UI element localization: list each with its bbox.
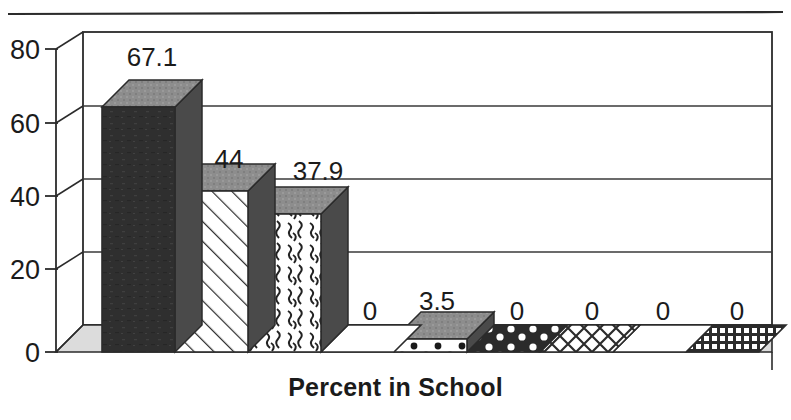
y-tick-label-60: 60	[10, 109, 40, 139]
bar-1	[102, 80, 202, 352]
y-tick-label-0: 0	[25, 338, 40, 368]
y-tick-label-20: 20	[10, 255, 40, 285]
top-separator-rule	[8, 12, 783, 14]
y-tick-labels: 80 60 40 20 0	[10, 35, 40, 368]
bar-chart-canvas: 80 60 40 20 0	[0, 0, 791, 420]
data-label-4: 0	[363, 296, 377, 326]
data-label-6: 0	[510, 296, 524, 326]
data-label-7: 0	[585, 296, 599, 326]
data-label-5: 3.5	[419, 286, 455, 316]
y-axis	[45, 32, 83, 352]
data-label-9: 0	[730, 296, 744, 326]
data-label-1: 67.1	[127, 42, 178, 72]
y-tick-label-40: 40	[10, 182, 40, 212]
data-label-8: 0	[656, 296, 670, 326]
data-label-2: 44	[215, 144, 244, 174]
y-tick-label-80: 80	[10, 35, 40, 65]
x-axis-title: Percent in School	[0, 373, 791, 402]
data-label-3: 37.9	[293, 156, 344, 186]
chart-figure: 80 60 40 20 0	[0, 0, 791, 420]
